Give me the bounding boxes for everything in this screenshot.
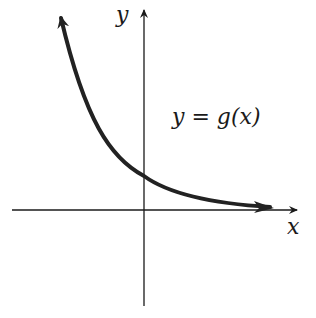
x-axis-label: x — [287, 214, 299, 239]
curve-label: y = g(x) — [172, 104, 261, 129]
y-axis-label: y — [116, 2, 128, 27]
graph-canvas — [0, 0, 316, 318]
